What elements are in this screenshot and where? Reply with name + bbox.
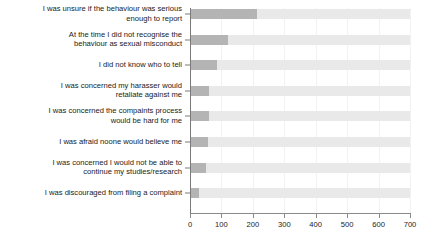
y-axis-tick [185, 65, 190, 66]
x-axis-tick [190, 214, 191, 218]
category-label: I was discouraged from filing a complain… [0, 188, 182, 198]
y-axis-tick [185, 193, 190, 194]
bar-track [190, 86, 410, 96]
category-label: I was concerned my harasser would retali… [0, 81, 182, 100]
bar-track [190, 137, 410, 147]
x-axis-tick-label: 100 [215, 220, 228, 229]
bar-track [190, 111, 410, 121]
bar-track [190, 35, 410, 45]
x-axis-tick-label: 200 [247, 220, 260, 229]
bar [190, 111, 209, 121]
x-axis-tick [221, 214, 222, 218]
y-axis-tick [185, 14, 190, 15]
bar [190, 188, 199, 198]
category-label: I was unsure if the behaviour was seriou… [0, 4, 182, 23]
x-axis-tick [410, 214, 411, 218]
bar-track [190, 9, 410, 19]
x-axis-tick-label: 300 [278, 220, 291, 229]
bar [190, 9, 257, 19]
x-axis-tick [379, 214, 380, 218]
category-label: At the time I did not recognise the beha… [0, 30, 182, 49]
bar [190, 163, 206, 173]
x-axis-tick-label: 700 [404, 220, 417, 229]
y-axis-tick [185, 90, 190, 91]
bar [190, 35, 228, 45]
bar [190, 60, 217, 70]
bar [190, 137, 208, 147]
category-label: I was concerned the compaints process wo… [0, 107, 182, 126]
x-axis-tick-label: 400 [309, 220, 322, 229]
y-axis-tick [185, 142, 190, 143]
y-axis-tick [185, 167, 190, 168]
bar-track [190, 188, 410, 198]
horizontal-bar-chart: I was unsure if the behaviour was seriou… [0, 0, 431, 249]
y-axis-tick [185, 116, 190, 117]
x-axis-tick [253, 214, 254, 218]
category-label: I did not know who to tell [0, 60, 182, 70]
x-axis-tick-label: 500 [341, 220, 354, 229]
bar-track [190, 163, 410, 173]
x-axis-tick [316, 214, 317, 218]
y-axis-tick [185, 39, 190, 40]
x-axis-tick [284, 214, 285, 218]
y-axis-spine [190, 8, 191, 214]
x-axis-tick [347, 214, 348, 218]
gridline [410, 8, 411, 213]
bar-track [190, 60, 410, 70]
bar [190, 86, 209, 96]
category-label-column: I was unsure if the behaviour was seriou… [0, 0, 186, 220]
x-axis-tick-label: 0 [188, 220, 192, 229]
category-label: I was afraid noone would believe me [0, 137, 182, 147]
x-axis-tick-label: 600 [372, 220, 385, 229]
category-label: I was concerned I would not be able to c… [0, 158, 182, 177]
plot-area [190, 8, 410, 213]
